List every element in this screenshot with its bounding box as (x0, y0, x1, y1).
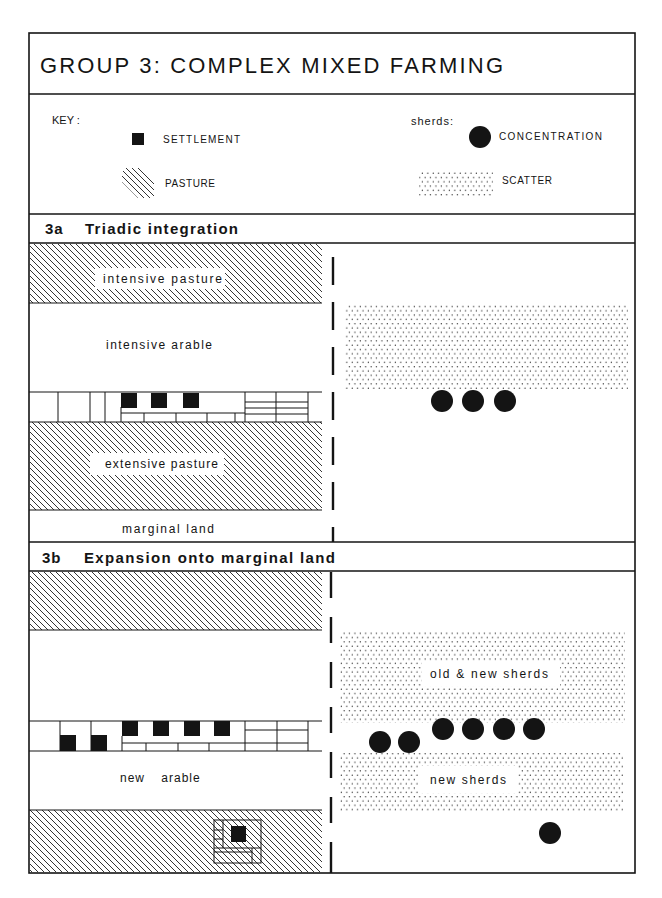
key-heading: KEY : (52, 114, 80, 126)
sherd-concentration (462, 718, 484, 740)
settlement-icon (132, 133, 144, 145)
settlement-marker (214, 721, 230, 736)
legend-pasture-label: PASTURE (165, 178, 215, 189)
legend-scatter-label: SCATTER (502, 175, 552, 186)
legend-concentration-label: CONCENTRATION (499, 131, 602, 142)
sherd-concentration (398, 731, 420, 753)
settlement-marker (153, 721, 169, 736)
panel-3a-heading: Triadic integration (85, 220, 238, 237)
old-new-sherds-label: old & new sherds (430, 667, 548, 681)
legend-sherds-label: sherds: (411, 115, 453, 127)
panel-3a-number: 3a (45, 220, 64, 237)
settlement-marker (183, 393, 199, 408)
sherd-concentration (494, 390, 516, 412)
settlement-marker (91, 735, 107, 751)
lower-pasture-zone (30, 810, 322, 872)
panel-3b-sherds: old & new sherds new sherds (340, 630, 625, 844)
panel-3b-heading: Expansion onto marginal land (84, 549, 335, 566)
concentration-icon (469, 126, 491, 148)
sherd-concentration (369, 731, 391, 753)
intensive-pasture-label: intensive pasture (103, 272, 222, 286)
legend: KEY : SETTLEMENT PASTURE sherds: CONCENT… (52, 114, 602, 198)
panel-3b-land-use: new arable (29, 572, 322, 872)
upper-pasture-zone (30, 572, 322, 630)
sherd-concentration (462, 390, 484, 412)
panel-3b-number: 3b (42, 549, 62, 566)
sherd-scatter-zone (345, 305, 628, 391)
page-title: GROUP 3: COMPLEX MIXED FARMING (40, 53, 503, 78)
sherd-concentration (539, 822, 561, 844)
sherd-concentration (493, 718, 515, 740)
extensive-pasture-label: extensive pasture (105, 457, 218, 471)
settlement-strip-3a (29, 392, 322, 422)
marginal-land-label: marginal land (122, 522, 214, 536)
settlement-marker (231, 826, 246, 842)
settlement-strip-3b (29, 721, 322, 751)
legend-settlement-label: SETTLEMENT (163, 134, 240, 145)
new-arable-label: new arable (120, 771, 201, 785)
sherd-concentration (431, 390, 453, 412)
settlement-marker (122, 721, 138, 736)
settlement-marker (151, 393, 167, 408)
scatter-icon (419, 171, 493, 197)
panel-3a-sherds (345, 305, 628, 412)
sherd-concentration (432, 718, 454, 740)
settlement-marker (60, 735, 76, 751)
settlement-marker (184, 721, 200, 736)
farming-diagram: GROUP 3: COMPLEX MIXED FARMING KEY : SET… (0, 0, 662, 898)
panel-3a-land-use: intensive pasture intensive arable exten… (29, 244, 322, 536)
sherd-concentration (523, 718, 545, 740)
settlement-marker (121, 393, 137, 408)
intensive-arable-label: intensive arable (106, 338, 212, 352)
pasture-icon (122, 168, 154, 198)
